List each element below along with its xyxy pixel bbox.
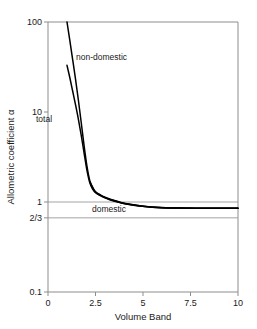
y-tick-label: 0.1 [29,287,42,297]
x-axis-tick-labels: 02.557.510 [45,298,243,308]
y-tick-label: 2/3 [29,213,42,223]
y-tick-label: 100 [27,17,42,27]
x-tick-label: 7.5 [184,298,197,308]
x-axis-ticks [48,292,238,296]
non-domestic-annotation: non-domestic [76,52,128,62]
y-axis-tick-labels: 1001012/30.1 [27,17,42,297]
y-axis-title: Allometric coefficient α [5,109,16,205]
x-tick-label: 0 [45,298,50,308]
total-annotation: total [36,114,52,124]
plot-area-background [48,22,238,292]
y-tick-label: 1 [37,197,42,207]
x-tick-label: 10 [233,298,243,308]
allometric-coefficient-chart: 1001012/30.1 02.557.510 non-domestictota… [0,0,257,329]
x-tick-label: 2.5 [89,298,102,308]
chart-figure: 1001012/30.1 02.557.510 non-domestictota… [0,0,257,329]
x-tick-label: 5 [140,298,145,308]
domestic-annotation: domestic [92,204,127,214]
x-axis-title: Volume Band [115,311,172,322]
y-axis-ticks [44,22,48,292]
